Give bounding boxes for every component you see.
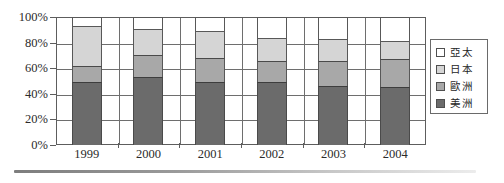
stacked-bar[interactable] bbox=[257, 17, 287, 145]
chart-legend: 亞太日本歐洲美洲 bbox=[430, 39, 488, 114]
bar-segment-asia-pacific[interactable] bbox=[72, 17, 102, 26]
x-axis-tick-mark bbox=[364, 143, 365, 148]
bar-segment-japan[interactable] bbox=[72, 26, 102, 66]
bar-segment-europe[interactable] bbox=[257, 61, 287, 83]
y-axis-tick-mark bbox=[50, 145, 56, 146]
x-axis-tick-mark bbox=[179, 143, 180, 148]
legend-swatch-icon bbox=[436, 99, 445, 108]
y-axis-tick-label: 40% bbox=[25, 88, 48, 100]
legend-item-label: 亞太 bbox=[450, 47, 473, 58]
legend-item-asia-pacific[interactable]: 亞太 bbox=[436, 44, 482, 60]
legend-swatch-icon bbox=[436, 82, 445, 91]
bar-segment-japan[interactable] bbox=[318, 39, 348, 61]
bar-segment-asia-pacific[interactable] bbox=[380, 17, 410, 41]
stacked-bar[interactable] bbox=[72, 17, 102, 145]
bar-segment-americas[interactable] bbox=[380, 87, 410, 145]
legend-item-americas[interactable]: 美洲 bbox=[436, 95, 482, 111]
bar-segment-europe[interactable] bbox=[133, 55, 163, 77]
bar-segment-americas[interactable] bbox=[257, 82, 287, 145]
bar-group bbox=[303, 17, 365, 145]
bar-segment-japan[interactable] bbox=[195, 31, 225, 58]
bar-segment-americas[interactable] bbox=[133, 77, 163, 145]
x-axis-tick-label: 2003 bbox=[303, 147, 365, 162]
legend-item-label: 美洲 bbox=[450, 98, 473, 109]
bars-layer bbox=[56, 17, 426, 145]
legend-item-japan[interactable]: 日本 bbox=[436, 61, 482, 77]
bar-segment-japan[interactable] bbox=[133, 29, 163, 56]
bar-group bbox=[56, 17, 118, 145]
bar-group bbox=[364, 17, 426, 145]
y-axis-tick-label: 20% bbox=[25, 113, 48, 125]
stacked-bar-chart: 0%20%40%60%80%100% 199920002001200220032… bbox=[0, 0, 504, 183]
stacked-bar[interactable] bbox=[133, 17, 163, 145]
legend-swatch-icon bbox=[436, 48, 445, 57]
bar-segment-asia-pacific[interactable] bbox=[195, 17, 225, 31]
bar-segment-europe[interactable] bbox=[72, 66, 102, 83]
x-axis-tick-label: 1999 bbox=[56, 147, 118, 162]
legend-item-label: 日本 bbox=[450, 64, 473, 75]
bar-segment-asia-pacific[interactable] bbox=[318, 17, 348, 39]
legend-item-label: 歐洲 bbox=[450, 81, 473, 92]
bar-segment-europe[interactable] bbox=[318, 61, 348, 87]
x-axis-tick-label: 2001 bbox=[179, 147, 241, 162]
y-axis-tick-label: 100% bbox=[19, 11, 48, 23]
x-axis-tick-label: 2000 bbox=[118, 147, 180, 162]
bar-segment-europe[interactable] bbox=[195, 58, 225, 82]
bar-segment-japan[interactable] bbox=[380, 41, 410, 59]
x-axis-tick-mark bbox=[241, 143, 242, 148]
bar-group bbox=[118, 17, 180, 145]
stacked-bar[interactable] bbox=[195, 17, 225, 145]
bar-group bbox=[241, 17, 303, 145]
bar-segment-europe[interactable] bbox=[380, 59, 410, 87]
x-axis-tick-label: 2004 bbox=[364, 147, 426, 162]
stacked-bar[interactable] bbox=[380, 17, 410, 145]
x-axis-tick-mark bbox=[118, 143, 119, 148]
bar-segment-asia-pacific[interactable] bbox=[133, 17, 163, 29]
y-axis-tick-label: 0% bbox=[31, 139, 48, 151]
x-axis: 199920002001200220032004 bbox=[56, 147, 426, 167]
bar-segment-americas[interactable] bbox=[72, 82, 102, 145]
decorative-rule bbox=[14, 170, 476, 173]
y-axis-tick-label: 60% bbox=[25, 62, 48, 74]
stacked-bar[interactable] bbox=[318, 17, 348, 145]
bar-group bbox=[179, 17, 241, 145]
legend-swatch-icon bbox=[436, 65, 445, 74]
bar-segment-americas[interactable] bbox=[195, 82, 225, 145]
legend-item-europe[interactable]: 歐洲 bbox=[436, 78, 482, 94]
bar-segment-asia-pacific[interactable] bbox=[257, 17, 287, 37]
bar-segment-americas[interactable] bbox=[318, 86, 348, 145]
bar-segment-japan[interactable] bbox=[257, 38, 287, 61]
x-axis-tick-mark bbox=[303, 143, 304, 148]
y-axis: 0%20%40%60%80%100% bbox=[0, 17, 54, 145]
y-axis-tick-label: 80% bbox=[25, 37, 48, 49]
x-axis-tick-label: 2002 bbox=[241, 147, 303, 162]
